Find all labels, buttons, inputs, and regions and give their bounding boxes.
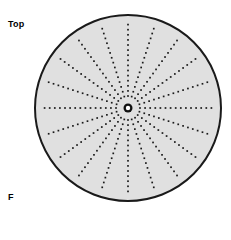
spoke-dot xyxy=(182,125,184,127)
spoke-dot xyxy=(85,107,87,109)
spoke-dot xyxy=(87,120,89,122)
spoke-dot xyxy=(111,57,113,59)
spoke-dot xyxy=(139,143,141,145)
spoke-dot xyxy=(117,93,119,95)
spoke-dot xyxy=(120,86,122,88)
spoke-dot xyxy=(84,76,86,78)
spoke-5 xyxy=(139,107,212,109)
spoke-dot xyxy=(174,141,176,143)
spoke-dot xyxy=(152,142,154,144)
spoke-dot xyxy=(149,123,151,125)
spoke-dot xyxy=(137,114,139,116)
spoke-dot xyxy=(80,73,82,75)
spoke-dot xyxy=(154,107,156,109)
spoke-dot xyxy=(105,123,107,125)
spoke-dot xyxy=(62,86,64,88)
spoke-dot xyxy=(44,107,46,109)
spoke-dot xyxy=(127,170,129,172)
spoke-dot xyxy=(185,107,187,109)
spoke-dot xyxy=(84,166,86,168)
spoke-dot xyxy=(112,62,114,64)
spoke-dot xyxy=(101,28,103,30)
spoke-dot xyxy=(146,81,148,83)
spoke-dot xyxy=(127,119,129,121)
spoke-dot xyxy=(101,99,103,101)
spoke-dot xyxy=(153,99,155,101)
spoke-dot xyxy=(106,172,108,174)
spoke-dot xyxy=(72,89,74,91)
spoke-dot xyxy=(119,133,121,135)
spoke-dot xyxy=(117,121,119,123)
spoke-dot xyxy=(197,130,199,132)
spoke-dot xyxy=(127,34,129,36)
spoke-dot xyxy=(160,107,162,109)
spoke-dot xyxy=(173,122,175,124)
spoke-dot xyxy=(72,125,74,127)
spoke-dot xyxy=(192,128,194,130)
spoke-dot xyxy=(158,150,160,152)
spoke-dot xyxy=(211,107,213,109)
spoke-dot xyxy=(195,107,197,109)
spoke-dot xyxy=(127,65,129,67)
spoke-dot xyxy=(177,123,179,125)
spoke-dot xyxy=(91,96,93,98)
spoke-dot xyxy=(141,117,143,119)
spoke-dot xyxy=(58,130,60,132)
spoke-dot xyxy=(137,138,139,140)
spoke-dot xyxy=(111,112,113,114)
spoke-dot xyxy=(149,77,151,79)
spoke-dot xyxy=(143,129,145,131)
spoke-dot xyxy=(195,156,197,158)
spoke-dot xyxy=(114,125,116,127)
spoke-dot xyxy=(97,129,99,131)
spoke-dot xyxy=(127,70,129,72)
spoke-dot xyxy=(145,52,147,54)
spoke-dot xyxy=(182,67,184,69)
spoke-dot xyxy=(127,180,129,182)
spoke-dot xyxy=(143,102,145,104)
spoke-dot xyxy=(127,140,129,142)
spoke-dot xyxy=(141,97,143,99)
spoke-dot xyxy=(140,89,142,91)
spoke-dot xyxy=(178,144,180,146)
spoke-dot xyxy=(170,166,172,168)
spoke-dot xyxy=(102,73,104,75)
spoke-dot xyxy=(166,135,168,137)
spoke-dot xyxy=(127,49,129,51)
spoke-dot xyxy=(111,129,113,131)
spoke-dot xyxy=(111,102,113,104)
spoke-dot xyxy=(127,191,129,193)
spoke-dot xyxy=(116,71,118,73)
spoke-dot xyxy=(163,96,165,98)
spoke-dot xyxy=(78,40,80,42)
spoke-dot xyxy=(78,175,80,177)
spoke-dot xyxy=(49,107,51,109)
spoke-dot xyxy=(123,96,125,98)
spoke-dot xyxy=(53,83,55,85)
spoke-dot xyxy=(140,148,142,150)
spoke-dot xyxy=(67,88,69,90)
spoke-dot xyxy=(89,135,91,137)
spoke-dot xyxy=(161,154,163,156)
spoke-dot xyxy=(117,100,119,102)
spoke-dot xyxy=(153,116,155,118)
spoke-dot xyxy=(182,147,184,149)
spoke-dot xyxy=(168,120,170,122)
spoke-dot xyxy=(103,33,105,35)
spoke-dot xyxy=(127,44,129,46)
spoke-dot xyxy=(103,182,105,184)
spoke-dot xyxy=(182,89,184,91)
spoke-dot xyxy=(144,107,146,109)
spoke-dot xyxy=(148,100,150,102)
spoke-dot xyxy=(109,120,111,122)
spoke-dot xyxy=(161,60,163,62)
center-hub-group xyxy=(124,104,133,113)
spoke-dot xyxy=(108,167,110,169)
spoke-dot xyxy=(167,162,169,164)
spoke-dot xyxy=(105,137,107,139)
spoke-dot xyxy=(96,97,98,99)
spoke-dot xyxy=(134,86,136,88)
spoke-dot xyxy=(187,88,189,90)
spoke-dot xyxy=(58,85,60,87)
spoke-dot xyxy=(170,138,172,140)
